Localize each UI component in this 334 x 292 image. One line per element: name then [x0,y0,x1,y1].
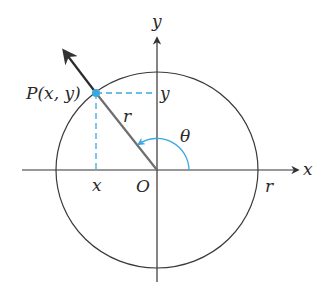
origin-label: O [136,176,150,196]
unit-circle-diagram: y x P(x, y) y x r θ O r [0,0,334,292]
angle-label: θ [180,126,190,146]
x-axis-label: x [303,159,313,179]
radius-label: r [123,106,132,126]
point-p-dot [92,89,100,97]
point-y-label: y [159,83,170,103]
y-axis-label: y [151,11,162,31]
point-p-label: P(x, y) [25,83,81,103]
radius-axis-label: r [265,176,274,196]
radius-segment [96,93,157,170]
point-x-label: x [92,175,102,195]
